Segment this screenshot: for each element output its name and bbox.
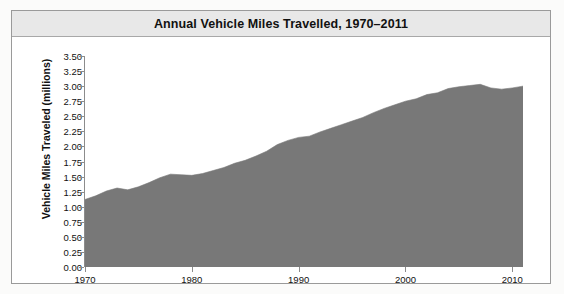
y-axis-tick-label: 1.00: [48, 201, 82, 212]
y-axis-tick-label: 1.25: [48, 186, 82, 197]
y-axis-tick-label: 2.75: [48, 96, 82, 107]
y-axis-tick-label: 1.75: [48, 156, 82, 167]
x-axis-tick-mark: [192, 267, 193, 272]
x-axis-tick-mark: [405, 267, 406, 272]
y-axis-tick-label: 2.00: [48, 141, 82, 152]
y-axis-tick-label: 3.50: [48, 51, 82, 62]
x-axis-tick-label: 2000: [395, 274, 416, 285]
y-axis-tick-label: 2.50: [48, 111, 82, 122]
chart-title-bar: Annual Vehicle Miles Travelled, 1970–201…: [12, 11, 550, 37]
plot-wrapper: Vehicle Miles Traveled (millions) 3.503.…: [12, 37, 550, 283]
x-axis-tick-label: 1970: [74, 274, 95, 285]
x-axis-tick-mark: [299, 267, 300, 272]
y-axis-tick-label: 1.50: [48, 171, 82, 182]
plot-area: [85, 56, 523, 267]
y-axis-tick-label: 0.50: [48, 231, 82, 242]
vehicle-miles-area-series: [85, 56, 523, 267]
page-title: Annual Vehicle Miles Travelled, 1970–201…: [154, 17, 408, 31]
y-axis-tick-label: 0.75: [48, 216, 82, 227]
y-axis-tick-label: 3.25: [48, 66, 82, 77]
y-axis-tick-label: 0.25: [48, 246, 82, 257]
x-axis-tick-label: 1980: [181, 274, 202, 285]
x-axis-tick-mark: [85, 267, 86, 272]
x-axis-tick-label: 1990: [288, 274, 309, 285]
chart-figure: Annual Vehicle Miles Travelled, 1970–201…: [11, 10, 551, 284]
x-axis-tick-mark: [512, 267, 513, 272]
y-axis-tick-label: 3.00: [48, 81, 82, 92]
x-axis-tick-label: 2010: [502, 274, 523, 285]
y-axis-tick-label: 0.00: [48, 262, 82, 273]
y-axis-tick-label: 2.25: [48, 126, 82, 137]
y-axis-tick-mark: [79, 267, 84, 268]
area-fill-path: [85, 84, 523, 267]
y-axis-tick-labels: 3.503.253.002.752.502.252.001.751.501.25…: [48, 37, 82, 283]
